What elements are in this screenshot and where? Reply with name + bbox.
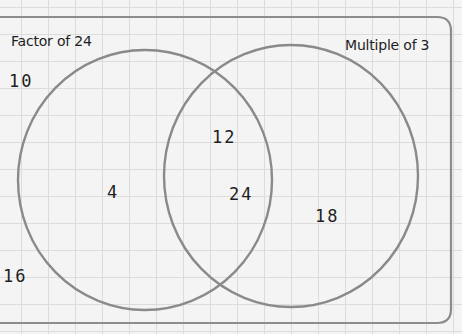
multiple-of-3-circle [164,45,418,307]
set-b-only-value-18: 18 [315,206,339,226]
outside-value-10: 10 [9,71,33,91]
intersection-value-24: 24 [229,184,253,204]
outside-value-16: 16 [3,266,27,286]
factor-of-24-circle [18,50,272,310]
set-a-only-value-4: 4 [107,182,119,202]
venn-diagram: Factor of 24 Multiple of 3 10 16 4 12 24… [0,0,462,334]
set-a-title: Factor of 24 [11,33,92,49]
intersection-value-12: 12 [212,127,236,147]
set-b-title: Multiple of 3 [345,37,429,53]
